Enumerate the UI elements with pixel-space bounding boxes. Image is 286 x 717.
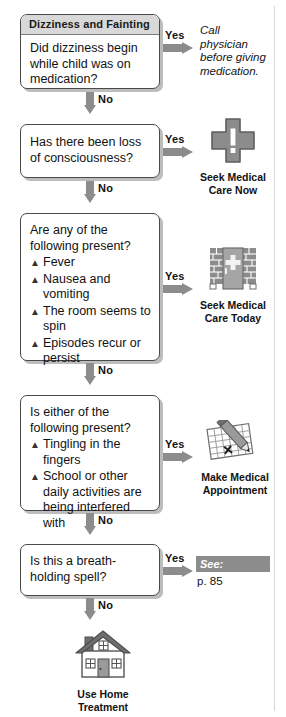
house-icon [55, 627, 151, 685]
yes-label: Yes [165, 29, 185, 41]
yes-label: Yes [165, 552, 185, 564]
outcome-seek-care-now[interactable]: Seek Medical Care Now [197, 118, 269, 196]
list-item-label: The room seems to spin [43, 304, 151, 334]
question-text-breath-holding: Is this a breath-holding spell? [30, 554, 152, 585]
arrow-right-icon [163, 451, 193, 462]
dizziness-fainting-flowchart: Dizziness and Fainting Did dizziness beg… [0, 0, 286, 717]
yes-label: Yes [165, 133, 185, 145]
arrow-right-icon [163, 42, 193, 53]
question-box-daily-activities[interactable]: Is either of the following present? ▲Tin… [20, 395, 160, 511]
outcome-caption: Seek Medical Care Today [197, 299, 269, 324]
list-item: ▲The room seems to spin [30, 304, 152, 335]
question-text-daily-activities: Is either of the following present? [30, 405, 152, 436]
cross-reference-see[interactable]: See: p. 85 [196, 556, 270, 588]
arrow-right-icon [163, 146, 193, 157]
arrow-down-icon [84, 92, 95, 114]
list-item-label: Nausea and vomiting [43, 272, 110, 302]
advice-call-physician: Call physician before giving medication. [200, 24, 280, 78]
question-box-medication[interactable]: Dizziness and Fainting Did dizziness beg… [20, 14, 160, 89]
triangle-bullet-icon: ▲ [30, 255, 40, 271]
arrow-down-icon [84, 363, 95, 385]
outcome-caption: Use Home Treatment [55, 688, 151, 713]
triangle-bullet-icon: ▲ [30, 272, 40, 288]
arrow-right-icon [163, 565, 193, 576]
question-box-breath-holding[interactable]: Is this a breath-holding spell? [20, 544, 160, 596]
outcome-seek-care-today[interactable]: Seek Medical Care Today [197, 246, 269, 324]
no-label: No [98, 364, 113, 376]
outcome-make-appointment[interactable]: Make Medical Appointment [197, 420, 273, 496]
outcome-use-home-treatment[interactable]: Use Home Treatment [55, 627, 151, 713]
yes-label: Yes [165, 270, 185, 282]
outcome-caption: Make Medical Appointment [197, 471, 273, 496]
question-text-symptoms: Are any of the following present? [30, 223, 152, 254]
list-item: ▲Fever [30, 255, 152, 271]
list-item-label: Tingling in the fingers [43, 437, 120, 467]
medical-cross-icon [197, 118, 269, 168]
see-banner-label: See: [196, 556, 270, 572]
no-label: No [98, 514, 113, 526]
arrow-down-icon [84, 513, 95, 535]
yes-label: Yes [165, 438, 185, 450]
arrow-right-icon [163, 283, 193, 294]
outcome-caption: Seek Medical Care Now [197, 171, 269, 196]
list-item-label: Fever [43, 255, 75, 269]
arrow-down-icon [84, 598, 95, 620]
calendar-pencil-icon [197, 420, 273, 468]
question-box-consciousness[interactable]: Has there been loss of consciousness? [20, 124, 160, 178]
question-text-medication: Did dizziness begin while child was on m… [30, 41, 152, 88]
no-label: No [98, 599, 113, 611]
triangle-bullet-icon: ▲ [30, 336, 40, 352]
list-item: ▲Nausea and vomiting [30, 272, 152, 303]
flowchart-title: Dizziness and Fainting [21, 15, 159, 35]
symptom-list: ▲Fever ▲Nausea and vomiting ▲The room se… [30, 255, 152, 367]
see-page-number: p. 85 [196, 574, 270, 588]
triangle-bullet-icon: ▲ [30, 304, 40, 320]
triangle-bullet-icon: ▲ [30, 437, 40, 453]
list-item-label: Episodes recur or persist [43, 336, 141, 366]
question-box-symptoms[interactable]: Are any of the following present? ▲Fever… [20, 213, 160, 361]
list-item: ▲Episodes recur or persist [30, 336, 152, 367]
no-label: No [98, 93, 113, 105]
list-item: ▲Tingling in the fingers [30, 437, 152, 468]
no-label: No [98, 182, 113, 194]
triangle-bullet-icon: ▲ [30, 469, 40, 485]
question-text-consciousness: Has there been loss of consciousness? [30, 135, 152, 166]
clinic-building-icon [197, 246, 269, 296]
arrow-down-icon [84, 181, 95, 203]
